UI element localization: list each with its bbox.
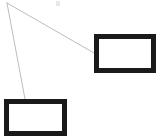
diagram-canvas (0, 0, 158, 139)
frame-top-right[interactable] (97, 37, 154, 71)
diagram-vector-layer (0, 0, 158, 139)
frame-bottom-left-border (7, 102, 65, 134)
frame-bottom-left[interactable] (7, 102, 65, 134)
frame-top-right-border (97, 37, 154, 71)
faint-mark-artifact (56, 1, 60, 6)
